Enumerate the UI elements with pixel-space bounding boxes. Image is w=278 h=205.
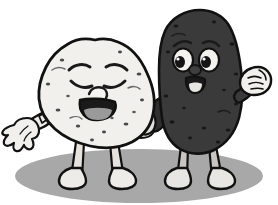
potato-characters-illustration <box>0 0 278 205</box>
light-potato-open-hand <box>2 118 39 151</box>
illustration-canvas: Two cartoon potato characters <box>0 0 278 205</box>
dark-potato-nose <box>189 65 201 75</box>
light-potato-mouth <box>80 99 116 120</box>
dark-potato-mouth <box>186 77 205 93</box>
dark-potato-fist <box>240 67 271 95</box>
